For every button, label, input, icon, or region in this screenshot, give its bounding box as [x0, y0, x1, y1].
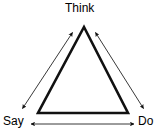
triangle-outline	[38, 27, 128, 113]
triangle-shape	[38, 27, 128, 113]
diagram-canvas: Think Say Do	[0, 0, 163, 137]
node-label-think: Think	[65, 2, 94, 15]
node-label-do: Do	[138, 115, 153, 128]
node-label-say: Say	[3, 115, 24, 128]
